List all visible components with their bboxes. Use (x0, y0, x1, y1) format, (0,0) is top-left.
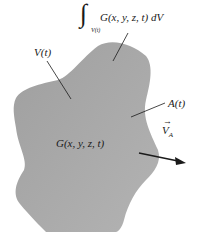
surface-label: A(t) (168, 97, 185, 109)
vector-arrow-icon: → (163, 116, 172, 126)
velocity-label: → VA (162, 124, 173, 136)
integral-subscript: V(t) (91, 27, 100, 33)
integral-symbol: ∫ (80, 1, 87, 27)
integral-expression: G(x, y, z, t) dV (100, 11, 163, 23)
volume-label: V(t) (34, 46, 51, 58)
velocity-arrowhead-icon (175, 157, 186, 165)
field-label: G(x, y, z, t) (56, 137, 104, 149)
diagram-canvas (0, 0, 204, 232)
velocity-subscript: A (169, 131, 173, 139)
control-volume-diagram: ∫ V(t) G(x, y, z, t) dV V(t) A(t) G(x, y… (0, 0, 204, 232)
